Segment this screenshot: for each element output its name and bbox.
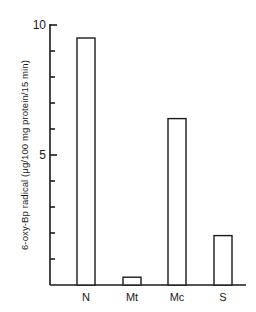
bars: [77, 38, 232, 285]
bar-mt: [123, 277, 141, 285]
bar-mc: [168, 119, 186, 285]
x-tick-label-mc: Mc: [170, 291, 185, 303]
bar-s: [214, 236, 232, 285]
y-tick-labels: 10 5: [33, 18, 47, 162]
x-tick-labels: NMtMcS: [82, 291, 227, 303]
bar-n: [77, 38, 95, 285]
y-tick-label-10: 10: [33, 18, 47, 32]
y-tick-label-5: 5: [39, 148, 46, 162]
x-tick-label-mt: Mt: [126, 291, 138, 303]
y-axis-label: 6-oxy-Bp radical (μg/100 mg protein/15 m…: [19, 60, 30, 250]
x-tick-label-n: N: [82, 291, 90, 303]
bar-chart: 10 5 NMtMcS: [0, 0, 256, 312]
x-tick-label-s: S: [219, 291, 226, 303]
y-ticks: [50, 25, 57, 259]
